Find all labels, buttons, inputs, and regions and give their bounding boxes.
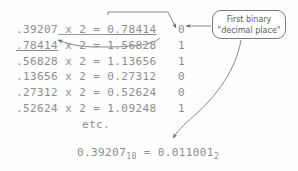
- table-row: .52624 x 2 = 1.09248: [16, 101, 196, 117]
- row-fraction: .78414: [16, 39, 58, 52]
- callout-line-2: "decimal place": [218, 25, 281, 36]
- bit-value: 0: [178, 85, 198, 101]
- row-operator: x 2 =: [58, 39, 107, 52]
- row-fraction: .13656: [16, 70, 58, 83]
- diagram-canvas: .39207 x 2 = 0.78414 .78414 x 2 = 1.5682…: [0, 0, 298, 171]
- row-operator: x 2 =: [58, 23, 107, 36]
- table-row: .13656 x 2 = 0.27312: [16, 69, 196, 85]
- row-fraction: .27312: [16, 86, 58, 99]
- bit-value: 0: [178, 69, 198, 85]
- row-fraction: .52624: [16, 102, 58, 115]
- bit-value: 0: [178, 22, 198, 38]
- result-binary-base: 2: [214, 152, 219, 161]
- callout-box: First binary "decimal place": [212, 10, 286, 39]
- result-decimal-base: 10: [126, 152, 136, 161]
- row-product: 1.56828: [107, 39, 156, 52]
- table-row: .78414 x 2 = 1.56828: [16, 38, 196, 54]
- etc-label: etc.: [82, 118, 110, 131]
- row-fraction: .56828: [16, 55, 58, 68]
- row-product: 0.27312: [107, 70, 156, 83]
- row-product: 1.09248: [107, 102, 156, 115]
- result-decimal-value: 0.39207: [77, 146, 126, 159]
- result-equation: 0.3920710 = 0.0110012: [77, 146, 219, 159]
- row-operator: x 2 =: [58, 102, 107, 115]
- row-product: 0.52624: [107, 86, 156, 99]
- row-product: 1.13656: [107, 55, 156, 68]
- result-binary-value: 0.011001: [158, 146, 214, 159]
- result-equals: =: [137, 146, 158, 159]
- bit-value: 1: [178, 101, 198, 117]
- table-row: .39207 x 2 = 0.78414: [16, 22, 196, 38]
- row-fraction: .39207: [16, 23, 58, 36]
- callout-line-1: First binary: [227, 14, 272, 25]
- row-operator: x 2 =: [58, 55, 107, 68]
- bit-column: 0 1 1 0 0 1: [178, 22, 198, 117]
- multiplication-rows: .39207 x 2 = 0.78414 .78414 x 2 = 1.5682…: [16, 22, 196, 117]
- bit-value: 1: [178, 38, 198, 54]
- table-row: .56828 x 2 = 1.13656: [16, 54, 196, 70]
- bit-value: 1: [178, 54, 198, 70]
- row-operator: x 2 =: [58, 86, 107, 99]
- row-operator: x 2 =: [58, 70, 107, 83]
- row-product: 0.78414: [107, 23, 156, 36]
- table-row: .27312 x 2 = 0.52624: [16, 85, 196, 101]
